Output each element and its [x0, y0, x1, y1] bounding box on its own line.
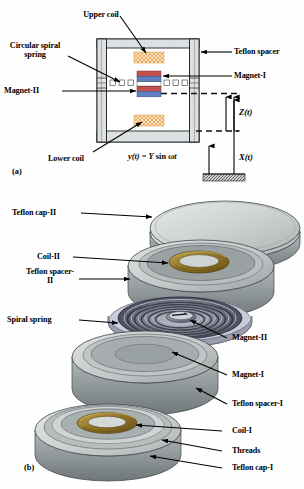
- label-magnet-i-panel-b: Magnet-I: [232, 370, 264, 379]
- figure-root: Upper coil Circular spiral spring Magnet…: [0, 0, 304, 489]
- label-teflon-spacer: Teflon spacer: [234, 47, 279, 56]
- label-spiral-spring: Spiral spring: [7, 315, 51, 324]
- part-teflon-cap-ii: [150, 201, 300, 271]
- label-magnet-ii-panel-b: Magnet-II: [232, 333, 267, 342]
- spiral-spring-elements-right: [164, 80, 188, 86]
- spiral-spring-disc: [118, 297, 242, 339]
- part-coil-i: [77, 413, 137, 434]
- part-teflon-spacer-i: [72, 331, 218, 415]
- magnet-i-shape: [137, 71, 161, 82]
- label-circular-spiral-spring: Circular spiral spring: [2, 41, 68, 60]
- equation-equals: =: [140, 152, 149, 161]
- label-magnet-ii-panel-a: Magnet-II: [4, 86, 39, 95]
- threads-ring: [44, 405, 172, 449]
- label-absolute-displacement: X(t): [239, 152, 253, 162]
- part-coil-ii: [169, 251, 229, 273]
- label-coil-ii: Coil-II: [37, 252, 60, 261]
- label-relative-displacement: Z(t): [239, 107, 252, 117]
- panel-b-id: (b): [24, 463, 34, 472]
- base-excitation-equation: y(t) = Y sin ωt: [128, 152, 177, 161]
- label-coil-i: Coil-I: [232, 426, 252, 435]
- label-threads: Threads: [232, 446, 260, 455]
- z-arrow: [226, 97, 240, 131]
- equation-argument: ωt: [168, 152, 176, 161]
- spiral-spring-elements-left: [110, 80, 134, 86]
- ground-base: [203, 174, 245, 181]
- label-lower-coil: Lower coil: [48, 154, 84, 163]
- label-teflon-spacer-ii: Teflon spacer-II: [24, 267, 76, 286]
- label-teflon-cap-i: Teflon cap-I: [232, 463, 273, 472]
- label-teflon-spacer-i: Teflon spacer-I: [232, 399, 283, 408]
- equation-lhs: y(t): [128, 152, 140, 161]
- label-upper-coil: Upper coil: [66, 10, 136, 19]
- part-magnet-ii-hub: [166, 311, 196, 322]
- part-spiral-spring-assembly: [108, 297, 252, 347]
- magnet-ii-shape: [137, 86, 161, 97]
- part-teflon-spacer-ii: [128, 240, 274, 318]
- panel-a-id: (a): [12, 167, 22, 176]
- label-teflon-cap-ii: Teflon cap-II: [12, 208, 56, 217]
- label-magnet-i-panel-a: Magnet-I: [234, 71, 266, 80]
- equation-sin: sin: [154, 152, 168, 161]
- part-teflon-cap-i: [35, 404, 181, 481]
